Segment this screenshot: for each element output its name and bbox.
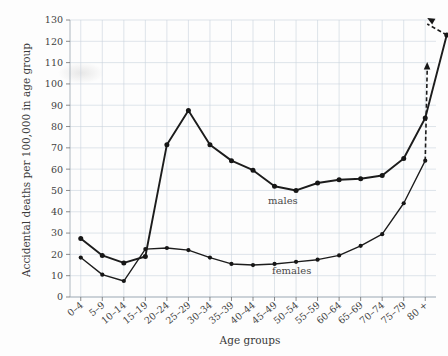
y-tick-label: 0 (57, 291, 63, 302)
data-point-marker (380, 173, 385, 178)
y-axis-title: Accidental deaths per 100,000 in age gro… (20, 43, 32, 278)
x-tick-label: 75–79 (379, 299, 408, 326)
data-point-marker (294, 260, 298, 264)
y-tick-label: 30 (51, 227, 63, 238)
data-point-marker (315, 181, 320, 186)
data-point-marker (294, 188, 299, 193)
data-point-marker (402, 201, 406, 205)
data-point-marker (164, 142, 169, 147)
data-point-marker (122, 279, 126, 283)
data-point-marker (423, 116, 428, 121)
y-tick-label: 120 (45, 36, 63, 47)
y-tick-label: 40 (51, 206, 63, 217)
data-point-marker (143, 247, 147, 251)
y-tick-label: 110 (45, 57, 63, 68)
y-tick-label: 80 (51, 121, 63, 132)
y-tick-label: 10 (51, 270, 63, 281)
data-point-marker (423, 159, 427, 163)
x-tick-label: 0–4 (65, 299, 85, 318)
females-series-label: females (272, 265, 311, 276)
x-axis-tick-labels: 0–45–910–1415–1920–2425–2930–3435–3940–4… (65, 299, 429, 326)
x-axis-title: Age groups (219, 334, 281, 346)
females-arrowhead-icon (424, 62, 431, 70)
accidental-deaths-line-chart: 0102030405060708090100110120130 0–45–910… (0, 0, 448, 356)
x-axis-ticks (81, 297, 425, 301)
y-tick-label: 20 (51, 249, 63, 260)
data-point-marker (78, 236, 83, 241)
data-point-marker (315, 258, 319, 262)
males-series-line (81, 35, 447, 263)
data-point-marker (100, 273, 104, 277)
vertical-gridlines (81, 20, 425, 297)
data-point-marker (272, 184, 277, 189)
data-point-marker (186, 248, 190, 252)
data-point-marker (165, 246, 169, 250)
males-open-ended-arrow (427, 24, 447, 35)
males-arrowhead-icon (427, 18, 435, 25)
data-point-marker (121, 260, 126, 265)
data-point-marker (207, 142, 212, 147)
data-point-marker (229, 158, 234, 163)
chart-canvas: 0102030405060708090100110120130 0–45–910… (0, 0, 448, 356)
x-tick-label: 80 + (405, 299, 430, 322)
y-tick-label: 130 (45, 14, 63, 25)
data-point-marker (251, 168, 256, 173)
data-point-marker (401, 156, 406, 161)
data-point-marker (208, 255, 212, 259)
data-point-marker (143, 254, 148, 259)
y-axis-ticks (66, 20, 70, 297)
data-point-marker (380, 232, 384, 236)
y-tick-label: 90 (51, 100, 63, 111)
males-data-markers (78, 32, 448, 265)
males-series-label: males (268, 195, 298, 206)
y-tick-label: 60 (51, 164, 63, 175)
data-point-marker (358, 176, 363, 181)
data-point-marker (229, 262, 233, 266)
data-point-marker (337, 177, 342, 182)
data-point-marker (186, 108, 191, 113)
data-point-marker (79, 255, 83, 259)
data-point-marker (100, 253, 105, 258)
y-tick-label: 50 (51, 185, 63, 196)
females-open-ended-arrow (425, 68, 427, 161)
y-tick-label: 70 (51, 142, 63, 153)
y-tick-label: 100 (45, 78, 63, 89)
y-axis-tick-labels: 0102030405060708090100110120130 (45, 14, 63, 302)
data-point-marker (337, 253, 341, 257)
data-point-marker (359, 244, 363, 248)
data-point-marker (251, 263, 255, 267)
